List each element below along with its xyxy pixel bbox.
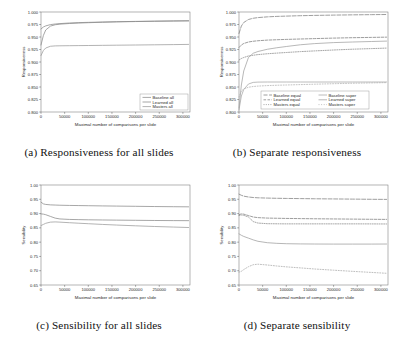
x-tick-label: 250000: [152, 287, 166, 292]
chart-svg-c: 0.650.700.750.800.850.900.951.0005000010…: [0, 173, 198, 318]
chart-svg-d: 0.650.700.750.800.850.900.951.0005000010…: [198, 173, 396, 318]
series-line: [239, 194, 387, 199]
y-tick-label: 1.00: [30, 183, 39, 188]
series-line: [41, 214, 189, 221]
x-tick-label: 50000: [59, 114, 71, 119]
y-axis-title: Responsiveness: [21, 47, 26, 78]
x-tick-label: 100000: [279, 114, 293, 119]
panel-d: 0.650.700.750.800.850.900.951.0005000010…: [198, 173, 396, 347]
legend-label: Masters all: [153, 104, 173, 109]
legend-label: Masters equal: [274, 102, 300, 107]
y-tick-label: 0.850: [226, 85, 237, 90]
x-axis-title: Maximal number of comparisons per slide: [75, 295, 157, 300]
chart-svg-a: 0.8000.8250.8500.8750.9000.9250.9500.975…: [0, 0, 198, 145]
y-tick-label: 0.95: [228, 197, 237, 202]
legend-label: Masters super: [329, 102, 356, 107]
y-tick-label: 0.875: [28, 72, 39, 77]
figure-grid: 0.8000.8250.8500.8750.9000.9250.9500.975…: [0, 0, 396, 347]
series-line: [41, 222, 189, 228]
series-line: [239, 48, 387, 60]
x-tick-label: 100000: [81, 114, 95, 119]
panel-b: 0.8000.8250.8500.8750.9000.9250.9500.975…: [198, 0, 396, 173]
plot-b: 0.8000.8250.8500.8750.9000.9250.9500.975…: [198, 0, 396, 145]
x-tick-label: 300000: [176, 114, 190, 119]
y-tick-label: 0.85: [228, 225, 237, 230]
x-tick-label: 150000: [303, 114, 317, 119]
series-line: [41, 202, 189, 207]
y-tick-label: 0.825: [226, 97, 237, 102]
x-tick-label: 0: [238, 287, 241, 292]
x-tick-label: 0: [238, 114, 241, 119]
plot-frame: [41, 185, 190, 285]
y-tick-label: 1.00: [228, 183, 237, 188]
x-tick-label: 200000: [327, 114, 341, 119]
y-tick-label: 0.90: [30, 211, 39, 216]
x-axis-title: Maximal number of comparisons per slide: [273, 295, 355, 300]
x-tick-label: 200000: [129, 114, 143, 119]
x-axis-title: Maximal number of comparisons per slide: [273, 122, 355, 127]
plot-c: 0.650.700.750.800.850.900.951.0005000010…: [0, 173, 198, 318]
panel-caption-a: (a) Responsiveness for all slides: [24, 146, 173, 158]
y-tick-label: 0.800: [28, 110, 39, 115]
y-tick-label: 0.70: [30, 268, 39, 273]
x-tick-label: 100000: [279, 287, 293, 292]
y-tick-label: 0.950: [28, 35, 39, 40]
y-tick-label: 0.925: [226, 47, 237, 52]
y-tick-label: 0.65: [228, 283, 237, 288]
x-tick-label: 150000: [105, 114, 119, 119]
panel-caption-b: (b) Separate responsiveness: [233, 146, 361, 158]
x-tick-label: 150000: [303, 287, 317, 292]
chart-svg-b: 0.8000.8250.8500.8750.9000.9250.9500.975…: [198, 0, 396, 145]
y-tick-label: 0.75: [30, 254, 39, 259]
x-tick-label: 0: [40, 114, 43, 119]
x-tick-label: 50000: [59, 287, 71, 292]
y-tick-label: 0.975: [28, 22, 39, 27]
panel-c: 0.650.700.750.800.850.900.951.0005000010…: [0, 173, 198, 347]
x-tick-label: 250000: [152, 114, 166, 119]
x-tick-label: 0: [40, 287, 43, 292]
y-tick-label: 1.000: [226, 10, 237, 15]
series-line: [239, 15, 387, 34]
y-tick-label: 0.925: [28, 47, 39, 52]
x-tick-label: 200000: [129, 287, 143, 292]
y-tick-label: 0.70: [228, 268, 237, 273]
y-tick-label: 0.875: [226, 72, 237, 77]
y-tick-label: 0.95: [30, 197, 39, 202]
y-axis-title: Sensibility: [219, 225, 224, 245]
y-tick-label: 0.90: [228, 211, 237, 216]
y-tick-label: 0.950: [226, 35, 237, 40]
x-tick-label: 300000: [374, 287, 388, 292]
y-tick-label: 0.85: [30, 225, 39, 230]
y-tick-label: 0.900: [226, 60, 237, 65]
x-tick-label: 250000: [350, 114, 364, 119]
plot-d: 0.650.700.750.800.850.900.951.0005000010…: [198, 173, 396, 318]
x-tick-label: 250000: [350, 287, 364, 292]
y-tick-label: 0.900: [28, 60, 39, 65]
x-tick-label: 300000: [176, 287, 190, 292]
y-tick-label: 0.65: [30, 283, 39, 288]
y-tick-label: 1.000: [28, 10, 39, 15]
x-tick-label: 50000: [257, 287, 269, 292]
x-tick-label: 100000: [81, 287, 95, 292]
plot-frame: [239, 185, 388, 285]
x-tick-label: 150000: [105, 287, 119, 292]
y-axis-title: Responsiveness: [219, 47, 224, 78]
y-tick-label: 0.75: [228, 254, 237, 259]
panel-caption-d: (d) Separate sensibility: [244, 319, 351, 331]
x-tick-label: 300000: [374, 114, 388, 119]
x-axis-title: Maximal number of comparisons per slide: [75, 122, 157, 127]
series-line: [239, 37, 387, 47]
y-tick-label: 0.800: [226, 110, 237, 115]
y-tick-label: 0.80: [30, 240, 39, 245]
y-tick-label: 0.975: [226, 22, 237, 27]
y-tick-label: 0.80: [228, 240, 237, 245]
series-line: [239, 214, 387, 220]
y-tick-label: 0.825: [28, 97, 39, 102]
x-tick-label: 200000: [327, 287, 341, 292]
series-line: [41, 44, 189, 55]
plot-a: 0.8000.8250.8500.8750.9000.9250.9500.975…: [0, 0, 198, 145]
panel-a: 0.8000.8250.8500.8750.9000.9250.9500.975…: [0, 0, 198, 173]
panel-caption-c: (c) Sensibility for all slides: [36, 319, 162, 331]
series-line: [239, 234, 387, 244]
y-axis-title: Sensibility: [21, 225, 26, 245]
